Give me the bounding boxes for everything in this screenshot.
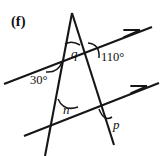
- right-slanted-line: [72, 13, 114, 145]
- upper-parallel-line: [4, 27, 152, 84]
- left-slanted-line: [45, 13, 72, 156]
- panel-label: (f): [11, 14, 26, 29]
- angle-label-30: 30°: [30, 74, 48, 87]
- geometry-figure: (f) q 110° 30° n p: [0, 0, 165, 156]
- angle-label-110: 110°: [101, 51, 124, 64]
- lower-parallel-line: [24, 83, 159, 136]
- angle-label-q: q: [71, 47, 78, 60]
- angle-arc-q: [65, 42, 80, 45]
- angle-label-p: p: [113, 118, 120, 131]
- angle-label-n: n: [63, 103, 70, 116]
